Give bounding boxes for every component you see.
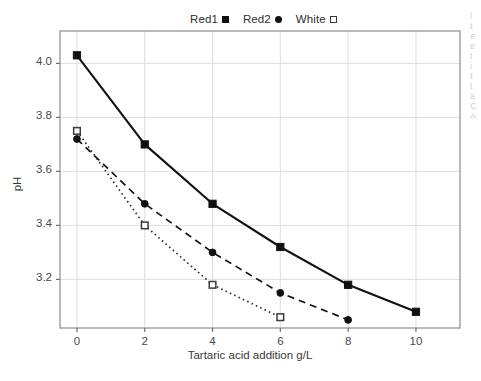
data-point-red1 xyxy=(345,281,352,288)
edge-text-fragment: A xyxy=(470,112,481,120)
data-point-red2 xyxy=(277,290,284,297)
edge-text-fragment: t xyxy=(470,22,481,30)
data-point-white xyxy=(74,128,81,135)
data-point-red1 xyxy=(412,308,419,315)
page-edge-text-bleed: lteetittaCA xyxy=(470,12,481,122)
edge-text-fragment: t xyxy=(470,52,481,60)
data-point-red1 xyxy=(277,243,284,250)
data-point-red2 xyxy=(141,200,148,207)
data-point-red1 xyxy=(209,200,216,207)
series-line-white xyxy=(77,131,280,317)
edge-text-fragment: t xyxy=(470,82,481,90)
ph-vs-tartaric-acid-chart: Red1 Red2 White pH Tartaric acid additio… xyxy=(0,0,481,381)
edge-text-fragment: e xyxy=(470,42,481,50)
edge-text-fragment: C xyxy=(470,102,481,110)
edge-text-fragment: e xyxy=(470,32,481,40)
edge-text-fragment: a xyxy=(470,92,481,100)
data-point-red1 xyxy=(141,141,148,148)
data-point-red2 xyxy=(345,317,352,324)
plot-frame xyxy=(60,31,460,328)
data-point-white xyxy=(141,222,148,229)
data-point-white xyxy=(277,314,284,321)
data-point-red2 xyxy=(209,249,216,256)
edge-text-fragment: i xyxy=(470,62,481,70)
data-point-red1 xyxy=(73,52,80,59)
edge-text-fragment: l xyxy=(470,12,481,20)
data-point-white xyxy=(209,282,216,289)
edge-text-fragment: t xyxy=(470,72,481,80)
data-point-red2 xyxy=(74,136,81,143)
plot-area xyxy=(0,0,481,381)
